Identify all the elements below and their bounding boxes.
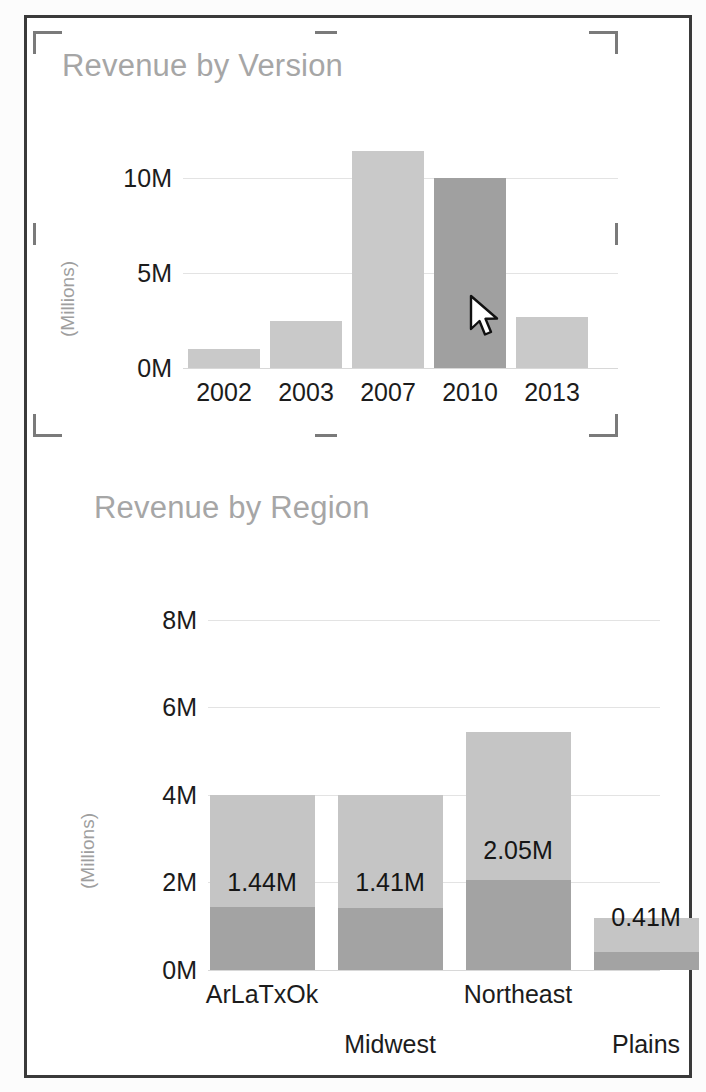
y-tick-region-0m: 0M <box>105 956 197 985</box>
x-tick-arlatxok: ArLaTxOk <box>206 980 319 1009</box>
bar-segment-lower-arlatxok <box>210 907 315 970</box>
bar-2003[interactable] <box>270 321 342 368</box>
x-tick-2002: 2002 <box>196 378 252 407</box>
y-tick-version-10m: 10M <box>80 164 172 193</box>
y-tick-version-0m: 0M <box>80 354 172 383</box>
x-tick-2007: 2007 <box>360 378 416 407</box>
y-tick-region-4m: 4M <box>105 781 197 810</box>
x-tick-2010: 2010 <box>442 378 498 407</box>
y-axis-title-version: (Millions) <box>57 217 79 337</box>
y-tick-region-6m: 6M <box>105 693 197 722</box>
y-tick-version-5m: 5M <box>80 259 172 288</box>
chart-revenue-by-version[interactable]: Revenue by Version (Millions) 10M 5M 0M … <box>40 48 618 418</box>
data-label-plains: 0.41M <box>611 903 680 932</box>
x-tick-2003: 2003 <box>278 378 334 407</box>
bar-2013[interactable] <box>516 317 588 368</box>
x-tick-2013: 2013 <box>524 378 580 407</box>
bar-segment-lower-plains <box>594 952 699 970</box>
axis-baseline-version <box>183 368 618 369</box>
scanned-page: Revenue by Version (Millions) 10M 5M 0M … <box>0 0 706 1092</box>
bar-2007[interactable] <box>352 151 424 368</box>
y-tick-region-2m: 2M <box>105 868 197 897</box>
y-tick-region-8m: 8M <box>105 606 197 635</box>
chart-title-revenue-by-region: Revenue by Region <box>94 490 660 526</box>
plot-area-version: (Millions) 10M 5M 0M 2002 2003 2007 2010 <box>40 116 618 418</box>
x-tick-plains: Plains <box>612 1030 680 1059</box>
bars-container-version <box>185 116 605 368</box>
data-label-midwest: 1.41M <box>355 868 424 897</box>
bar-2010[interactable] <box>434 178 506 368</box>
axis-baseline-region <box>208 970 660 971</box>
x-tick-midwest: Midwest <box>344 1030 436 1059</box>
bar-segment-lower-midwest <box>338 908 443 970</box>
bar-segment-lower-northeast <box>466 880 571 970</box>
chart-title-revenue-by-version: Revenue by Version <box>62 48 618 84</box>
bar-2002[interactable] <box>188 349 260 368</box>
data-label-northeast: 2.05M <box>483 836 552 865</box>
chart-revenue-by-region[interactable]: Revenue by Region (Millions) 8M 6M 4M 2M… <box>40 490 660 1070</box>
x-tick-northeast: Northeast <box>464 980 572 1009</box>
data-label-arlatxok: 1.44M <box>227 868 296 897</box>
plot-area-region: (Millions) 8M 6M 4M 2M 0M <box>40 578 660 1070</box>
bars-container-region <box>210 578 660 970</box>
y-axis-title-region: (Millions) <box>77 769 99 889</box>
